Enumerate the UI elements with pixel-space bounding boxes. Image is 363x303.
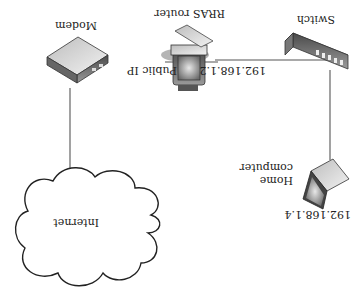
home-label-line2: computer (239, 161, 293, 174)
switch-label: Switch (297, 13, 335, 26)
switch-icon (285, 33, 348, 69)
home-ip: 192.168.1.4 (285, 208, 351, 221)
rras-public-ip: Public IP (126, 64, 177, 77)
modem-label: Modem (55, 19, 97, 32)
network-diagram: Switch RRAS router Public IP 192.168.1.2… (0, 0, 363, 303)
rras-lan-ip: 192.168.1.2 (200, 64, 266, 77)
modem-icon (47, 37, 108, 83)
diagram-svg: Switch RRAS router Public IP 192.168.1.2… (0, 0, 363, 303)
internet-label: Internet (53, 216, 99, 229)
keyboard-icon (175, 25, 213, 47)
rras-label: RRAS router (154, 7, 225, 20)
home-label-line1: Home (260, 174, 293, 187)
laptop-icon (303, 159, 349, 209)
